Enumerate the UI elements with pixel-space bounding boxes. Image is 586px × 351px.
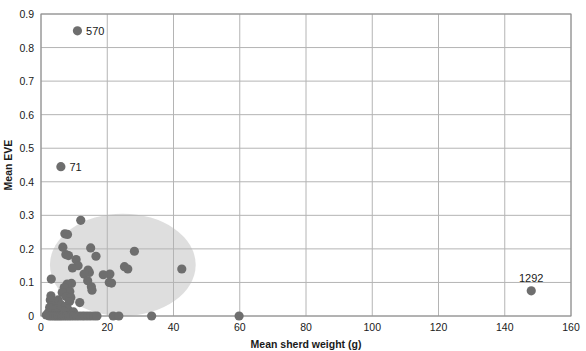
point-label-71: 71	[69, 161, 81, 173]
y-tick-label: 0.3	[19, 209, 34, 221]
data-point	[75, 298, 84, 307]
data-point	[68, 263, 77, 272]
data-point	[234, 311, 243, 320]
y-tick-label: 0.1	[19, 276, 34, 288]
data-point	[107, 279, 116, 288]
data-point	[130, 247, 139, 256]
data-point	[147, 311, 156, 320]
y-tick-label: 0.2	[19, 243, 34, 255]
y-tick-label: 0.4	[19, 176, 34, 188]
data-point	[56, 162, 65, 171]
data-point	[86, 243, 95, 252]
point-label-1292: 1292	[519, 272, 543, 284]
x-tick-label: 40	[168, 321, 180, 333]
x-tick-label: 80	[300, 321, 312, 333]
x-tick-label: 60	[234, 321, 246, 333]
data-point	[87, 286, 96, 295]
x-tick-label: 100	[363, 321, 381, 333]
x-axis-title: Mean sherd weight (g)	[251, 338, 362, 350]
x-tick-label: 140	[496, 321, 514, 333]
data-point	[76, 216, 85, 225]
y-tick-label: 0.6	[19, 109, 34, 121]
y-tick-label: 0.9	[19, 8, 34, 20]
chart-canvas: 570711292 020406080100120140160 00.10.20…	[0, 0, 586, 351]
data-point	[99, 270, 108, 279]
scatter-chart: 570711292 020406080100120140160 00.10.20…	[0, 0, 586, 351]
point-label-570: 570	[86, 25, 104, 37]
data-point	[114, 311, 123, 320]
data-point	[91, 252, 100, 261]
data-point	[63, 230, 72, 239]
y-tick-label: 0.7	[19, 75, 34, 87]
data-point	[92, 311, 101, 320]
x-tick-label: 160	[562, 321, 580, 333]
data-point	[47, 274, 56, 283]
x-tick-label: 120	[430, 321, 448, 333]
data-point	[177, 264, 186, 273]
y-tick-label: 0.5	[19, 142, 34, 154]
y-tick-label: 0.8	[19, 42, 34, 54]
y-axis-title: Mean EVE	[2, 140, 14, 191]
y-tick-label: 0	[28, 310, 34, 322]
x-tick-label: 20	[101, 321, 113, 333]
data-point	[73, 26, 82, 35]
x-tick-label: 0	[38, 321, 44, 333]
data-point	[120, 262, 129, 271]
data-point	[527, 286, 536, 295]
